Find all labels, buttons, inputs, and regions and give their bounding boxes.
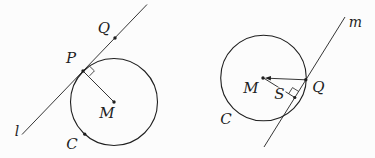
- left-radius-PM: [83, 71, 114, 102]
- right-diagram: m M S Q C: [220, 14, 362, 147]
- right-label-point-S: S: [274, 85, 284, 103]
- right-label-line-m: m: [349, 14, 362, 30]
- left-label-point-P: P: [65, 49, 77, 67]
- geometry-figure-canvas: l P Q M C m M S Q C: [0, 0, 375, 158]
- right-center-M-dot: [261, 76, 264, 79]
- right-label-point-Q: Q: [312, 78, 324, 96]
- right-right-angle-mark: [289, 88, 299, 94]
- right-label-circle-C: C: [220, 110, 232, 128]
- left-label-center-M: M: [98, 104, 115, 122]
- left-label-line-l: l: [15, 123, 19, 139]
- right-point-S-dot: [293, 96, 296, 99]
- left-point-Q-dot: [113, 36, 116, 39]
- left-circle-C-dot: [83, 133, 86, 136]
- right-segment-QM: [270, 78, 306, 80]
- right-point-Q-dot: [304, 78, 307, 81]
- right-label-center-M: M: [242, 79, 259, 97]
- tangent-secant-diagrams: l P Q M C m M S Q C: [0, 0, 375, 158]
- left-point-P-dot: [81, 69, 84, 72]
- right-secant-line-m: [264, 17, 345, 147]
- left-label-point-Q: Q: [98, 19, 110, 37]
- left-diagram: l P Q M C: [15, 5, 158, 153]
- left-label-circle-C: C: [66, 135, 78, 153]
- left-right-angle-mark: [89, 66, 94, 76]
